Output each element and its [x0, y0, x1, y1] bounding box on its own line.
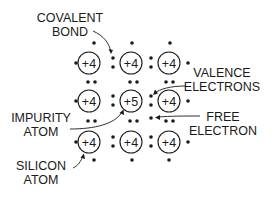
label-line: BOND — [52, 25, 88, 39]
arrowhead-icon — [109, 49, 114, 54]
atom-charge-label: +4 — [124, 57, 138, 71]
atom-r3-c3: +4 — [158, 131, 180, 153]
impurity-atom: +5 — [120, 90, 142, 112]
silicon-atom-label: SILICON ATOM — [16, 154, 85, 188]
silicon-atom: +4 — [78, 131, 100, 153]
atom-r2-c3: +4 — [158, 90, 180, 112]
atom-charge-label: +4 — [82, 95, 96, 109]
label-line: VALENCE — [193, 66, 250, 80]
label-line: IMPURITY — [11, 111, 71, 125]
label-line: COVALENT — [37, 11, 104, 25]
arrowhead-icon — [155, 115, 160, 120]
label-line: ELECTRONS — [184, 80, 260, 94]
atom-charge-label: +4 — [162, 57, 176, 71]
atom-charge-label: +5 — [124, 95, 138, 109]
atom-r1-c2: +4 — [120, 52, 142, 74]
arrowhead-icon — [81, 154, 86, 160]
atom-charge-label: +4 — [162, 95, 176, 109]
atom-charge-label: +4 — [162, 136, 176, 150]
atom-r1-c1: +4 — [78, 52, 100, 74]
label-line: ATOM — [24, 173, 59, 187]
atom-charge-label: +4 — [82, 57, 96, 71]
impurity-atom-label: IMPURITY ATOM — [11, 110, 124, 140]
atom-charge-label: +4 — [82, 136, 96, 150]
covalent-bond-arrow-icon — [93, 31, 111, 52]
label-line: ATOM — [24, 125, 59, 139]
label-line: SILICON — [16, 159, 66, 173]
label-line: ELECTRON — [189, 124, 257, 138]
semiconductor-lattice-diagram: +4 +4 +4 +4 +5 +4 +4 +4 — [0, 0, 273, 197]
arrowhead-icon — [153, 90, 158, 96]
atom-charge-label: +4 — [124, 136, 138, 150]
atom-r2-c1: +4 — [78, 90, 100, 112]
free-electron-arrow-icon — [158, 116, 200, 117]
covalent-bond-label: COVALENT BOND — [37, 11, 113, 54]
label-line: FREE — [206, 110, 239, 124]
free-electron-dot — [149, 116, 153, 120]
atom-r1-c3: +4 — [158, 52, 180, 74]
atom-r3-c2: +4 — [120, 131, 142, 153]
